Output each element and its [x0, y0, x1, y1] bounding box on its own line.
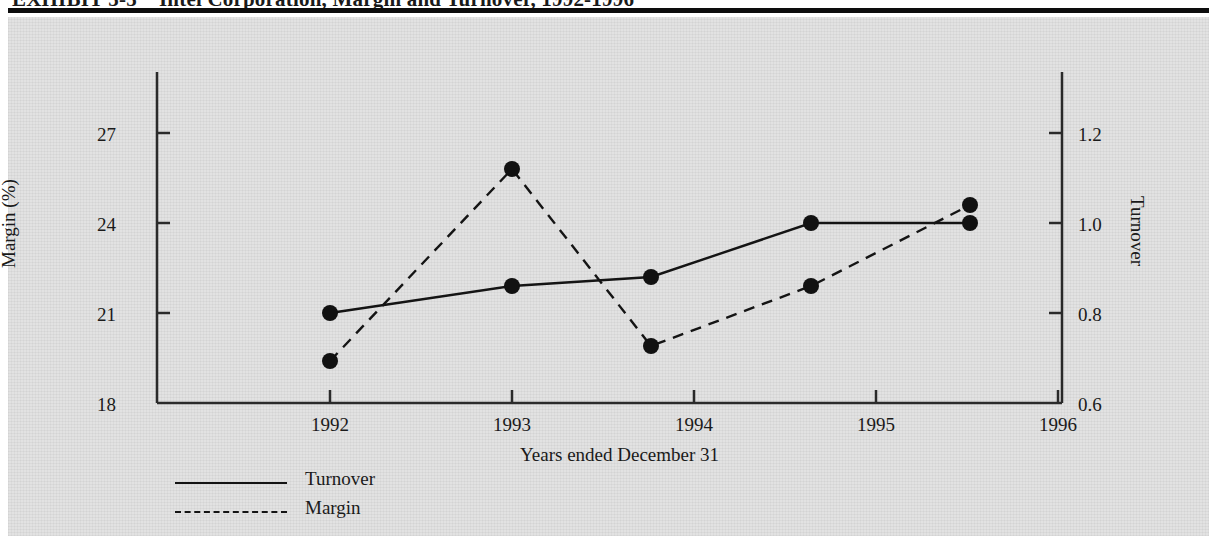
legend-item-margin: Margin [175, 499, 505, 525]
x-tick-label-1995: 1995 [831, 414, 921, 436]
data-point-margin-1992 [322, 353, 338, 369]
right-tick-label-1-0: 1.0 [1078, 214, 1124, 236]
left-tick-label-24: 24 [70, 214, 116, 236]
data-point-turnover-1996 [962, 215, 978, 231]
x-tick-label-1994: 1994 [649, 414, 739, 436]
legend-swatch-solid-line [175, 482, 287, 484]
data-point-margin-1996 [962, 197, 978, 213]
x-axis-title: Years ended December 31 [520, 444, 719, 466]
legend-label-turnover: Turnover [305, 468, 375, 490]
series-line-turnover [330, 223, 970, 313]
left-tick-label-18: 18 [70, 394, 116, 416]
right-tick-label-0-6: 0.6 [1078, 394, 1124, 416]
right-axis-title: Turnover [1126, 196, 1148, 266]
legend-item-turnover: Turnover [175, 470, 505, 496]
right-tick-label-1-2: 1.2 [1078, 124, 1124, 146]
legend-label-margin: Margin [305, 497, 361, 519]
data-point-margin-1995 [803, 278, 819, 294]
data-point-turnover-1993 [504, 278, 520, 294]
right-tick-label-0-8: 0.8 [1078, 304, 1124, 326]
data-point-margin-1993 [504, 161, 520, 177]
left-axis-title: Margin (%) [0, 179, 20, 268]
data-point-turnover-1994 [643, 269, 659, 285]
data-point-turnover-1992 [322, 305, 338, 321]
axis-lines [157, 72, 1062, 403]
x-tick-label-1996: 1996 [1013, 414, 1103, 436]
left-tick-label-27: 27 [70, 124, 116, 146]
exhibit-page: EXHIBIT 5-5Intel Corporation, Margin and… [0, 0, 1217, 544]
data-point-margin-1994 [643, 338, 659, 354]
left-axis-ticks [157, 133, 170, 313]
legend-swatch-dashed-line [175, 511, 287, 513]
left-tick-label-21: 21 [70, 304, 116, 326]
data-point-turnover-1995 [803, 215, 819, 231]
series-turnover [322, 215, 978, 321]
right-axis-ticks [1049, 133, 1062, 313]
x-tick-label-1993: 1993 [467, 414, 557, 436]
series-margin [322, 161, 978, 369]
series-line-margin [330, 169, 970, 361]
x-tick-label-1992: 1992 [285, 414, 375, 436]
chart-legend: Turnover Margin [175, 470, 505, 532]
x-axis-ticks [330, 390, 1058, 403]
